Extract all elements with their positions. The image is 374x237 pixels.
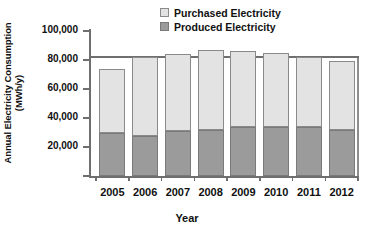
bar-segment-purchased-2006 [132, 57, 158, 136]
bar-2012 [329, 61, 355, 176]
bar-segment-purchased-2009 [230, 51, 256, 127]
y-axis-tick [83, 59, 91, 61]
bar-segment-produced-2008 [198, 130, 224, 176]
y-axis-tick [83, 30, 91, 32]
bar-2011 [296, 57, 322, 176]
y-axis-label: 20,000 [8, 140, 78, 151]
x-axis-tick [357, 176, 359, 181]
y-axis-line [89, 29, 91, 178]
x-axis-tick [325, 176, 327, 181]
y-axis-label: 40,000 [8, 111, 78, 122]
bar-segment-produced-2011 [296, 127, 322, 176]
y-axis-tick [83, 175, 91, 177]
bar-segment-purchased-2012 [329, 61, 355, 130]
legend-swatch-purchased [160, 8, 169, 17]
y-axis-label: 80,000 [8, 53, 78, 64]
bar-segment-produced-2005 [99, 133, 125, 177]
bar-segment-produced-2010 [263, 127, 289, 176]
bar-2008 [198, 50, 224, 176]
bar-segment-produced-2012 [329, 130, 355, 176]
bar-2010 [263, 53, 289, 176]
legend-swatch-produced [160, 22, 169, 31]
chart-container: Annual Electricity Consumption (MWh/y) 2… [0, 0, 374, 237]
plot-area [96, 31, 358, 176]
bar-segment-purchased-2005 [99, 69, 125, 133]
legend-item-purchased: Purchased Electricity [160, 6, 281, 19]
y-axis-tick [83, 117, 91, 119]
bar-segment-produced-2009 [230, 127, 256, 176]
x-axis-tick [128, 176, 130, 181]
legend-label-produced: Produced Electricity [174, 21, 276, 33]
bar-2005 [99, 69, 125, 176]
x-axis-label-2012: 2012 [322, 186, 362, 198]
bar-segment-purchased-2011 [296, 57, 322, 127]
bar-2007 [165, 53, 191, 176]
x-axis-tick [161, 176, 163, 181]
bar-segment-purchased-2007 [165, 54, 191, 132]
bar-2009 [230, 51, 256, 176]
y-axis-tick [83, 146, 91, 148]
y-axis-label: 60,000 [8, 82, 78, 93]
y-axis-tick [83, 88, 91, 90]
legend-label-purchased: Purchased Electricity [174, 7, 281, 19]
x-axis-title: Year [0, 212, 374, 224]
bar-segment-produced-2006 [132, 136, 158, 176]
chart-legend: Purchased Electricity Produced Electrici… [160, 6, 281, 34]
bar-2006 [132, 57, 158, 176]
y-axis-label: 100,000 [8, 24, 78, 35]
bar-segment-produced-2007 [165, 131, 191, 176]
bar-segment-purchased-2010 [263, 53, 289, 128]
x-axis-line [89, 176, 359, 178]
x-axis-tick [194, 176, 196, 181]
x-axis-tick [259, 176, 261, 181]
bar-segment-purchased-2008 [198, 50, 224, 130]
x-axis-tick [95, 176, 97, 181]
legend-item-produced: Produced Electricity [160, 20, 281, 33]
x-axis-tick [292, 176, 294, 181]
x-axis-tick [226, 176, 228, 181]
